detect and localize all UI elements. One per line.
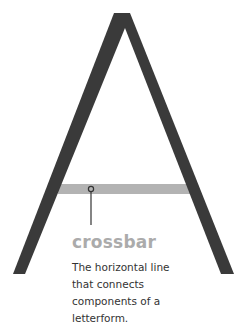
pointer-dot-icon xyxy=(88,186,93,191)
crossbar-highlight xyxy=(58,184,190,194)
term-description: The horizontal line that connects compon… xyxy=(72,259,192,326)
term-label: crossbar xyxy=(72,232,156,252)
